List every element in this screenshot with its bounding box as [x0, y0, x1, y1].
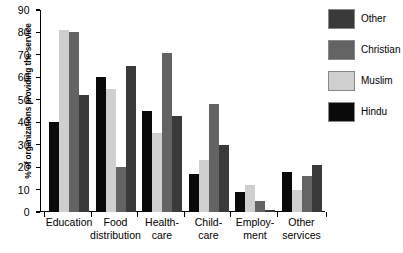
bar-group — [142, 10, 182, 212]
bar-hindu — [189, 174, 199, 212]
bar-muslim — [152, 133, 162, 212]
y-axis-tick-label: 80 — [18, 26, 30, 38]
y-axis-tick-label: 20 — [18, 161, 30, 173]
legend-label: Christian — [361, 44, 400, 55]
y-axis-tick-label: 50 — [18, 94, 30, 106]
legend-item-christian[interactable]: Christian — [328, 40, 400, 71]
bar-christian — [302, 176, 312, 212]
bar-other — [312, 165, 322, 212]
bar-christian — [255, 201, 265, 212]
y-axis-tick-label: 60 — [18, 71, 30, 83]
bar-hindu — [282, 172, 292, 212]
bar-muslim — [199, 160, 209, 212]
legend-label: Other — [361, 13, 386, 24]
y-axis-tick-label: 70 — [18, 49, 30, 61]
legend-swatch-hindu — [328, 102, 355, 122]
bar-group — [235, 10, 275, 212]
x-axis-label-line: Other — [262, 216, 342, 229]
bar-hindu — [49, 122, 59, 212]
bar-christian — [116, 167, 126, 212]
bar-christian — [69, 32, 79, 212]
bar-group — [49, 10, 89, 212]
bar-christian — [209, 104, 219, 212]
y-axis-tick-label: 10 — [18, 184, 30, 196]
bar-chart: % of organizations providing the service… — [0, 0, 403, 253]
bar-group — [96, 10, 136, 212]
legend-item-muslim[interactable]: Muslim — [328, 71, 400, 102]
bar-hindu — [235, 192, 245, 212]
plot-area: 0102030405060708090 EducationFooddistrib… — [40, 10, 325, 212]
bar-other — [172, 116, 182, 213]
bar-other — [219, 145, 229, 212]
legend-item-other[interactable]: Other — [328, 9, 400, 40]
legend-swatch-christian — [328, 40, 355, 60]
bar-christian — [162, 53, 172, 212]
x-axis-label: Otherservices — [262, 216, 342, 241]
bar-other — [265, 210, 275, 212]
bar-muslim — [292, 190, 302, 212]
bar-group — [189, 10, 229, 212]
y-axis-tick-label: 40 — [18, 116, 30, 128]
x-axis-label-line: services — [262, 229, 342, 242]
legend-item-hindu[interactable]: Hindu — [328, 102, 400, 133]
bar-muslim — [59, 30, 69, 212]
y-axis-tick-label: 30 — [18, 139, 30, 151]
bar-hindu — [142, 111, 152, 212]
legend-label: Muslim — [361, 75, 393, 86]
legend-swatch-other — [328, 9, 355, 29]
bar-other — [79, 95, 89, 212]
bar-groups — [40, 10, 325, 212]
legend: OtherChristianMuslimHindu — [328, 9, 400, 133]
bar-hindu — [96, 77, 106, 212]
y-axis-tick-label: 90 — [18, 4, 30, 16]
bar-group — [282, 10, 322, 212]
legend-swatch-muslim — [328, 71, 355, 91]
bar-other — [126, 66, 136, 212]
bar-muslim — [245, 185, 255, 212]
bar-muslim — [106, 89, 116, 212]
legend-label: Hindu — [361, 106, 387, 117]
